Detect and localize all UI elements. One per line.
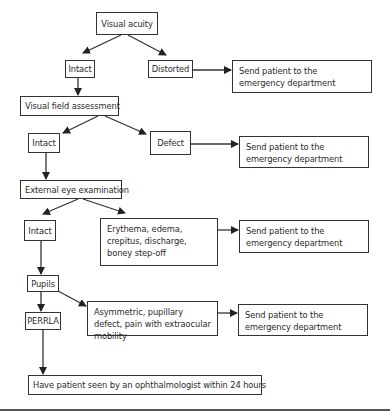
node-intact-3: Intact: [24, 220, 56, 241]
node-send-emergency-4: Send patient to the emergency department: [238, 304, 368, 336]
node-intact-1: Intact: [65, 60, 95, 78]
node-send-emergency-2: Send patient to the emergency department: [239, 136, 369, 168]
node-erythema-findings: Erythema, edema, crepitus, discharge, bo…: [100, 218, 218, 266]
node-send-emergency-3: Send patient to the emergency department: [239, 220, 369, 253]
node-visual-field-assessment: Visual field assessment: [20, 96, 119, 116]
node-pupils: Pupils: [27, 275, 59, 292]
node-defect: Defect: [150, 131, 191, 155]
node-asymmetric-findings: Asymmetric, pupillary defect, pain with …: [87, 301, 218, 336]
node-visual-acuity: Visual acuity: [96, 12, 158, 35]
node-intact-2: Intact: [28, 133, 60, 153]
node-perrla: PERRLA: [25, 312, 61, 330]
node-send-emergency-1: Send patient to the emergency department: [232, 60, 372, 93]
node-external-eye-examination: External eye examination: [20, 180, 122, 199]
bottom-rule: [0, 409, 390, 411]
node-distorted: Distorted: [148, 60, 193, 78]
node-ophthalmologist-referral: Have patient seen by an ophthalmologist …: [28, 375, 262, 395]
